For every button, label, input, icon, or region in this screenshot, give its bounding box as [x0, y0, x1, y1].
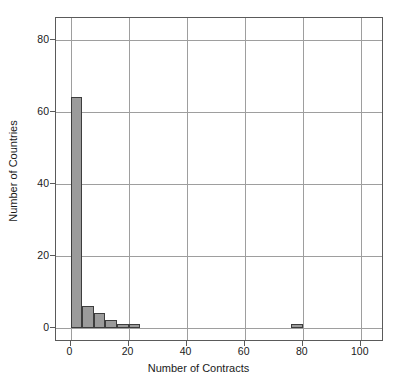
x-axis-tick-labels: 020406080100	[0, 345, 397, 361]
histogram-bar	[291, 324, 303, 328]
x-tick-label-20: 20	[122, 345, 134, 357]
y-axis-title: Number of Countries	[7, 96, 19, 246]
x-tick-label-100: 100	[351, 345, 369, 357]
plot-area	[55, 17, 383, 341]
histogram-bar	[82, 306, 94, 328]
x-tick-mark-0	[70, 341, 71, 346]
gridline-x-100	[361, 18, 362, 340]
histogram-bar	[105, 320, 117, 327]
x-tick-mark-40	[186, 341, 187, 346]
y-tick-mark-0	[50, 327, 55, 328]
y-tick-label-80: 80	[37, 33, 49, 45]
y-tick-mark-60	[50, 111, 55, 112]
gridline-x-20	[129, 18, 130, 340]
gridline-x-60	[245, 18, 246, 340]
x-tick-mark-20	[128, 341, 129, 346]
gridline-x-80	[303, 18, 304, 340]
y-tick-label-60: 60	[37, 105, 49, 117]
gridline-y-0	[56, 328, 382, 329]
x-tick-mark-80	[302, 341, 303, 346]
y-tick-label-0: 0	[43, 321, 49, 333]
histogram-bar	[94, 313, 106, 327]
y-tick-mark-80	[50, 39, 55, 40]
y-tick-mark-20	[50, 255, 55, 256]
histogram-figure: 020406080 020406080100 Number of Contrac…	[0, 0, 397, 390]
x-tick-mark-100	[360, 341, 361, 346]
x-axis-title: Number of Contracts	[0, 362, 397, 374]
y-tick-label-40: 40	[37, 177, 49, 189]
x-tick-label-0: 0	[67, 345, 73, 357]
gridline-y-60	[56, 112, 382, 113]
x-tick-mark-60	[244, 341, 245, 346]
histogram-bar	[117, 324, 129, 328]
gridline-x-40	[187, 18, 188, 340]
x-tick-label-60: 60	[238, 345, 250, 357]
gridline-y-20	[56, 256, 382, 257]
y-tick-mark-40	[50, 183, 55, 184]
y-tick-label-20: 20	[37, 249, 49, 261]
gridline-y-40	[56, 184, 382, 185]
histogram-bar	[129, 324, 141, 328]
gridline-y-80	[56, 40, 382, 41]
x-tick-label-80: 80	[296, 345, 308, 357]
x-tick-label-40: 40	[180, 345, 192, 357]
histogram-bar	[71, 97, 83, 327]
